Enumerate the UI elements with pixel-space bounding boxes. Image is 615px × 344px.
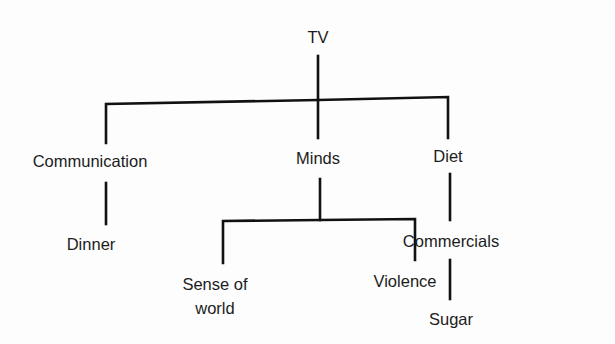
node-violence: Violence: [374, 270, 437, 292]
node-dinner: Dinner: [67, 233, 116, 255]
node-tv: TV: [307, 26, 328, 48]
node-minds: Minds: [296, 147, 340, 169]
node-commercials: Commercials: [403, 230, 499, 252]
tree-diagram: TV Communication Minds Diet Dinner Sense…: [0, 0, 615, 344]
node-sense-of-world-line2: world: [195, 297, 234, 319]
node-sense-of-world-line1: Sense of: [182, 273, 247, 295]
node-sugar: Sugar: [429, 308, 473, 330]
node-communication: Communication: [33, 150, 148, 172]
main-branch-line: [106, 97, 448, 143]
minds-branch-line: [223, 219, 415, 263]
connector-lines: [0, 0, 615, 344]
node-diet: Diet: [433, 145, 462, 167]
